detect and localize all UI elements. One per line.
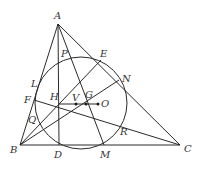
point-g-dot: [85, 103, 88, 106]
altitude-ad: [58, 24, 59, 145]
label-q: Q: [28, 114, 36, 125]
label-a: A: [53, 10, 61, 21]
nine-point-circle-diagram: A B C D M E N F L P Q R H V G O: [0, 0, 202, 170]
label-d: D: [53, 149, 62, 160]
altitude-be: [20, 60, 101, 145]
label-o: O: [101, 98, 109, 109]
label-r: R: [119, 126, 128, 137]
label-m: M: [99, 149, 111, 160]
label-v: V: [72, 92, 81, 103]
label-f: F: [23, 94, 32, 105]
label-l: L: [30, 78, 38, 89]
point-o-dot: [97, 103, 100, 106]
label-n: N: [121, 73, 132, 84]
nine-point-circle: [35, 57, 127, 149]
median-am: [58, 24, 104, 145]
label-b: B: [9, 144, 17, 155]
triangle-abc: [20, 24, 180, 145]
label-e: E: [99, 48, 108, 59]
median-bn: [20, 80, 119, 145]
label-g: G: [85, 89, 93, 100]
label-c: C: [184, 143, 192, 154]
label-h: H: [49, 91, 59, 102]
label-p: P: [60, 48, 68, 59]
